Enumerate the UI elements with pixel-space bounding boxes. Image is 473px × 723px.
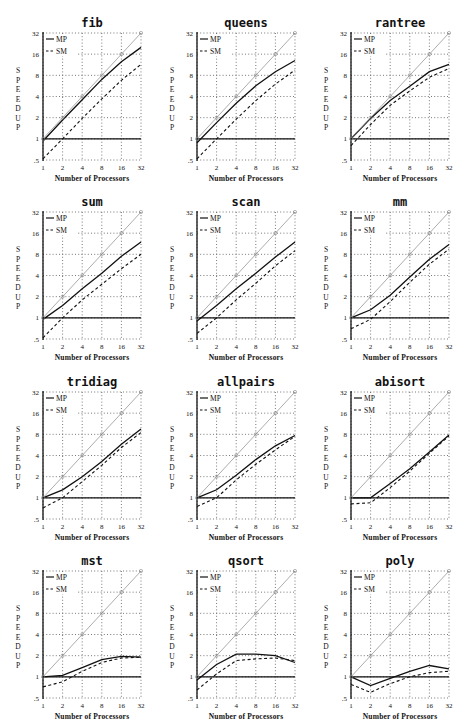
x-tick-label: 4 [388,523,392,531]
legend-sm-label: SM [210,585,221,594]
x-tick-label: 8 [254,702,258,710]
y-tick-label: 32 [340,568,348,576]
x-tick-label: 8 [254,343,258,351]
y-tick-label: 32 [186,209,194,217]
x-tick-label: 8 [408,343,412,351]
x-tick-label: 2 [215,343,219,351]
y-tick-label: 4 [190,631,194,639]
x-tick-label: 16 [426,343,434,351]
y-tick-label: 1 [36,494,40,502]
y-tick-label: 1 [344,673,348,681]
x-tick-label: 8 [408,702,412,710]
y-tick-label: 16 [32,51,40,59]
series-line-sm [351,249,449,329]
y-tick-label: 4 [36,631,40,639]
x-tick-label: 2 [215,523,219,531]
y-tick-label: 1 [36,135,40,143]
legend-sm-label: SM [210,226,221,235]
y-tick-label: 32 [186,389,194,397]
y-tick-label: .5 [188,336,194,344]
y-tick-label: 8 [344,72,348,80]
y-tick-label: .5 [342,157,348,165]
y-tick-label: 4 [344,452,348,460]
y-tick-label: 4 [36,93,40,101]
x-axis-label: Number of Processors [55,353,130,362]
y-tick-label: 8 [36,431,40,439]
x-tick-label: 2 [369,702,373,710]
chart-panel-queens: queens.51248163212481632Number of Proces… [169,16,299,183]
y-tick-label: 1 [190,673,194,681]
y-tick-label: 8 [344,251,348,259]
x-tick-label: 2 [369,343,373,351]
y-tick-label: 32 [186,568,194,576]
y-tick-label: .5 [34,516,40,524]
y-axis-label: SPEEDUP [15,245,21,311]
x-axis-label: Number of Processors [209,533,284,542]
y-tick-label: 32 [340,30,348,38]
x-tick-label: 1 [41,702,45,710]
series-line-sm [43,254,141,337]
y-tick-label: 4 [344,631,348,639]
x-axis-label: Number of Processors [363,533,438,542]
x-axis-label: Number of Processors [55,174,130,183]
x-tick-label: 8 [100,523,104,531]
y-tick-label: 4 [190,272,194,280]
x-tick-label: 2 [215,702,219,710]
y-tick-label: 2 [36,473,40,481]
x-tick-label: 8 [100,164,104,172]
x-tick-label: 32 [292,164,300,172]
series-line-mp [197,61,295,143]
x-tick-label: 16 [118,702,126,710]
chart-legend: MPSM [45,213,77,235]
y-tick-label: 4 [36,272,40,280]
legend-sm-label: SM [56,585,67,594]
y-tick-label: 16 [186,589,194,597]
legend-mp-label: MP [364,214,375,223]
chart-panel-tridiag: tridiag.51248163212481632Number of Proce… [15,375,145,542]
x-tick-label: 2 [61,343,65,351]
y-tick-label: 16 [186,51,194,59]
chart-title: fib [81,16,103,30]
legend-mp-label: MP [210,573,221,582]
chart-title: scan [232,195,261,209]
y-tick-label: 8 [190,610,194,618]
x-tick-label: 4 [388,702,392,710]
y-tick-label: 2 [190,114,194,122]
y-tick-label: 1 [344,135,348,143]
legend-mp-label: MP [56,394,67,403]
legend-sm-label: SM [364,585,375,594]
chart-legend: MPSM [45,34,77,56]
y-tick-label: 16 [340,410,348,418]
y-axis-label: SPEEDUP [169,425,175,491]
x-tick-label: 4 [80,343,84,351]
speedup-charts-grid: fib.51248163212481632Number of Processor… [0,0,473,723]
y-tick-label: .5 [342,336,348,344]
legend-mp-label: MP [210,214,221,223]
x-tick-label: 1 [195,702,199,710]
y-tick-label: .5 [342,516,348,524]
x-tick-label: 4 [234,702,238,710]
y-tick-label: 8 [190,72,194,80]
x-tick-label: 2 [369,523,373,531]
y-tick-label: 16 [186,410,194,418]
chart-title: mm [393,195,407,209]
x-tick-label: 32 [292,343,300,351]
x-tick-label: 32 [138,164,146,172]
chart-legend: MPSM [353,393,385,415]
x-tick-label: 8 [254,164,258,172]
y-tick-label: 2 [190,473,194,481]
x-tick-label: 1 [349,164,353,172]
x-axis-label: Number of Processors [209,712,284,721]
y-tick-label: 32 [32,568,40,576]
chart-title: sum [81,195,103,209]
y-axis-label: SPEEDUP [15,425,21,491]
chart-panel-mst: mst.51248163212481632Number of Processor… [15,554,145,721]
legend-sm-label: SM [364,406,375,415]
y-tick-label: 2 [190,293,194,301]
chart-panel-mm: mm.51248163212481632Number of Processors… [323,195,453,362]
x-tick-label: 16 [118,164,126,172]
x-tick-label: 1 [41,343,45,351]
y-axis-label: SPEEDUP [169,604,175,670]
y-tick-label: 32 [32,389,40,397]
x-tick-label: 8 [408,523,412,531]
